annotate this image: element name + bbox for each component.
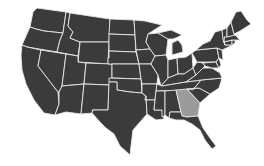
- state-new-mexico[interactable]: New Mexico: [81, 84, 109, 114]
- state-nebraska[interactable]: Nebraska: [108, 51, 139, 64]
- us-states-map: WashingtonOregonCaliforniaIdahoNevadaMon…: [0, 0, 264, 166]
- us-map-container: WashingtonOregonCaliforniaIdahoNevadaMon…: [0, 0, 264, 166]
- state-north-dakota[interactable]: North Dakota: [109, 19, 135, 35]
- state-south-dakota[interactable]: South Dakota: [109, 34, 136, 52]
- state-montana[interactable]: Montana: [68, 13, 110, 42]
- state-rhode-island[interactable]: Rhode Island: [232, 40, 235, 45]
- state-kansas[interactable]: Kansas: [112, 64, 141, 79]
- state-maine[interactable]: Maine: [231, 11, 251, 34]
- state-wyoming[interactable]: Wyoming: [78, 42, 109, 64]
- state-florida[interactable]: Florida: [169, 112, 216, 149]
- state-colorado[interactable]: Colorado: [84, 63, 112, 85]
